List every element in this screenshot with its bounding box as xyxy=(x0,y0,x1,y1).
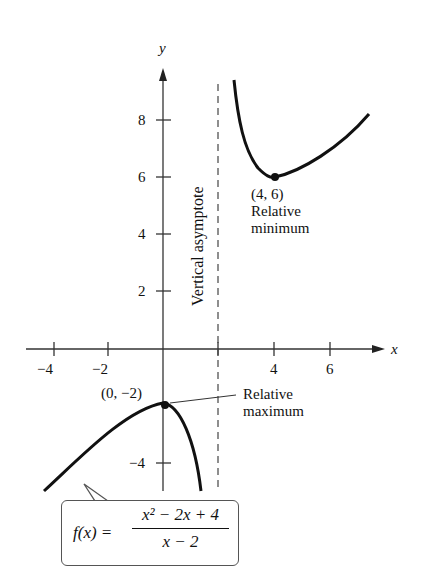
callout-pointer xyxy=(84,484,108,501)
formula-callout: f(x) = x² − 2x + 4 x − 2 xyxy=(61,500,239,566)
x-tick-label-4: 4 xyxy=(270,361,278,377)
min-point-label: (4, 6) xyxy=(251,186,284,202)
curve-right-branch xyxy=(234,80,369,177)
min-text-line2: minimum xyxy=(251,220,309,236)
x-axis-label: x xyxy=(391,341,398,357)
y-axis-arrow-icon xyxy=(159,68,167,81)
y-tick-label-8: 8 xyxy=(138,112,146,128)
x-tick-label-neg4: −4 xyxy=(37,361,53,377)
graph-canvas xyxy=(0,0,423,568)
y-tick-label-neg4: −4 xyxy=(129,455,145,471)
relative-maximum-point xyxy=(161,401,169,409)
x-tick-label-6: 6 xyxy=(326,361,334,377)
y-tick-label-6: 6 xyxy=(138,169,146,185)
x-tick-label-neg2: −2 xyxy=(92,361,108,377)
relative-minimum-point xyxy=(271,173,279,181)
y-axis-label: y xyxy=(159,40,166,56)
max-leader-line xyxy=(170,395,236,403)
formula-numerator: x² − 2x + 4 xyxy=(132,505,229,529)
formula-fraction: x² − 2x + 4 x − 2 xyxy=(132,505,229,552)
y-tick-label-4: 4 xyxy=(138,226,146,242)
min-text-line1: Relative xyxy=(251,203,301,219)
formula-denominator: x − 2 xyxy=(132,529,229,552)
max-text-line2: maximum xyxy=(243,403,304,419)
curve-left-branch xyxy=(44,403,201,491)
x-axis-arrow-icon xyxy=(372,345,385,353)
max-point-label: (0, −2) xyxy=(101,385,142,401)
vertical-asymptote-label: Vertical asymptote xyxy=(189,186,207,306)
formula-lhs: f(x) = xyxy=(73,523,112,543)
max-text-line1: Relative xyxy=(243,386,293,402)
y-tick-label-2: 2 xyxy=(138,283,146,299)
